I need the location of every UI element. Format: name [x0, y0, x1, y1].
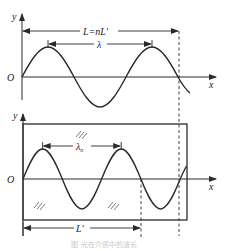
bottom-lambda-subscript: n [80, 147, 83, 153]
bottom-span-label: L' [75, 223, 85, 234]
bottom-panel: y x O λn [7, 110, 216, 238]
bottom-y-label: y [12, 110, 18, 121]
bottom-origin-label: O [7, 174, 14, 185]
top-origin-label: O [7, 72, 14, 83]
hatch-mark [34, 202, 45, 210]
top-lambda-label: λ [96, 39, 102, 50]
figure-caption: 图 光在介质中的波长 [71, 240, 136, 249]
wave-diagram: y x O L=nL' λ y x O [0, 0, 225, 251]
bottom-lambda-label: λn [75, 141, 83, 153]
top-y-label: y [11, 11, 17, 22]
hatch-mark [76, 131, 87, 139]
bottom-x-label: x [208, 181, 214, 192]
top-x-label: x [208, 79, 214, 90]
top-span-label: L=nL' [82, 26, 109, 37]
hatch-mark [108, 202, 119, 210]
